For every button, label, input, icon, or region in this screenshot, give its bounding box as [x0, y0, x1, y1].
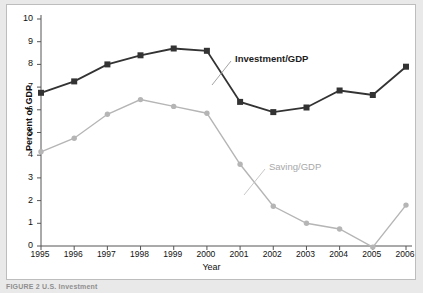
- y-axis-tick-label: 4: [17, 149, 33, 159]
- data-point: [270, 109, 276, 115]
- series-label-saving: Saving/GDP: [269, 161, 321, 172]
- data-point: [104, 61, 110, 67]
- x-axis-tick-label: 2004: [322, 249, 356, 259]
- y-axis-tick-label: 1: [17, 217, 33, 227]
- y-axis-tick-label: 10: [17, 13, 33, 23]
- y-axis-tick-label: 2: [17, 195, 33, 205]
- y-axis-tick-label: 6: [17, 104, 33, 114]
- x-axis-tick-label: 2000: [189, 249, 223, 259]
- x-axis-tick-label: 2006: [388, 249, 422, 259]
- data-point: [204, 111, 209, 116]
- series-line-investment: [41, 49, 406, 113]
- x-axis-tick-label: 2002: [255, 249, 289, 259]
- x-axis-tick-label: 2005: [355, 249, 389, 259]
- figure-container: Percent of GDP Investment/GDP Saving/GDP…: [0, 0, 423, 293]
- data-point: [71, 78, 77, 84]
- data-point: [38, 149, 43, 154]
- x-axis-tick-label: 1996: [56, 249, 90, 259]
- data-point: [403, 64, 409, 70]
- data-point: [370, 92, 376, 98]
- data-point: [237, 99, 243, 105]
- x-axis-tick-label: 1997: [89, 249, 123, 259]
- data-point: [337, 226, 342, 231]
- x-axis-tick-label: 1995: [23, 249, 57, 259]
- data-point: [105, 112, 110, 117]
- data-point: [337, 88, 343, 94]
- series-label-investment: Investment/GDP: [235, 53, 308, 64]
- data-point: [171, 104, 176, 109]
- data-point: [237, 162, 242, 167]
- data-point: [271, 204, 276, 209]
- data-point: [72, 136, 77, 141]
- y-axis-tick-label: 5: [17, 127, 33, 137]
- x-axis-tick-label: 1999: [156, 249, 190, 259]
- y-axis-tick-label: 9: [17, 36, 33, 46]
- data-point: [138, 52, 144, 58]
- x-axis-tick-label: 2003: [288, 249, 322, 259]
- chart-plot: [7, 5, 417, 281]
- y-axis-tick-label: 7: [17, 81, 33, 91]
- x-axis-title: Year: [0, 262, 423, 272]
- chart-panel: Percent of GDP Investment/GDP Saving/GDP…: [6, 4, 416, 280]
- data-point: [171, 46, 177, 52]
- data-point: [138, 97, 143, 102]
- data-point: [304, 221, 309, 226]
- y-axis-tick-label: 8: [17, 58, 33, 68]
- series-line-saving: [41, 100, 406, 248]
- data-point: [304, 105, 310, 111]
- y-axis-tick-label: 3: [17, 172, 33, 182]
- x-axis-tick-label: 2001: [222, 249, 256, 259]
- data-point: [38, 90, 44, 96]
- figure-caption: FIGURE 2 U.S. Investment: [6, 283, 98, 290]
- data-point: [403, 202, 408, 207]
- data-point: [204, 48, 210, 54]
- x-axis-tick-label: 1998: [123, 249, 157, 259]
